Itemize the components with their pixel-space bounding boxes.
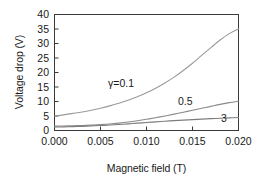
x-tick-label: 0.020 [216, 136, 262, 147]
series-annotation: 3 [221, 113, 227, 124]
x-tick-label: 0.015 [170, 136, 216, 147]
series-annotation: 0.5 [178, 96, 193, 107]
x-tick-label: 0.005 [78, 136, 124, 147]
x-axis-label: Magnetic field (T) [54, 162, 239, 174]
x-tick-label: 0.010 [124, 136, 170, 147]
series-annotation: γ=0.1 [108, 78, 134, 89]
x-tick-label: 0.000 [32, 136, 78, 147]
plot-area [0, 0, 271, 185]
x-axis-tick-labels: 0.0000.0050.0100.0150.020 [0, 136, 271, 152]
chart-figure: Voltage drop (V) 0510152025303540 0.0000… [0, 0, 271, 185]
axes-frame [55, 15, 239, 131]
